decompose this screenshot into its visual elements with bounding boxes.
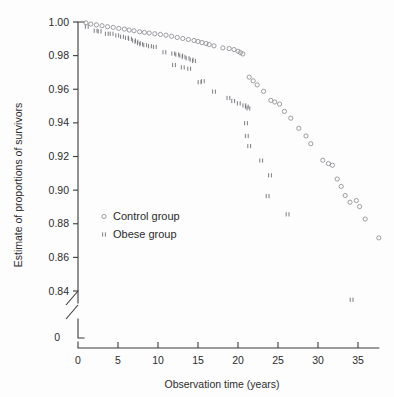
- data-point-control: [106, 25, 110, 29]
- data-point-obese: [125, 36, 128, 40]
- data-point-control: [102, 214, 106, 218]
- data-point-obese: [116, 33, 119, 37]
- data-point-control: [221, 46, 225, 50]
- y-tick-label: 0.98: [49, 49, 70, 61]
- y-axis: 0.840.860.880.900.920.940.960.981.00 0 E…: [12, 16, 84, 343]
- data-point-control: [282, 109, 286, 113]
- data-point-control: [170, 34, 174, 38]
- data-point-control: [251, 79, 255, 83]
- x-axis: 05101520253035 Observation time (years): [75, 342, 379, 390]
- data-point-control: [321, 158, 325, 162]
- data-point-control: [117, 26, 121, 30]
- data-point-obese: [98, 29, 101, 33]
- data-point-obese: [103, 232, 106, 236]
- data-point-control: [255, 83, 259, 87]
- data-point-obese: [153, 45, 156, 49]
- data-point-control: [111, 25, 115, 29]
- data-point-obese: [286, 212, 289, 216]
- data-point-obese: [149, 44, 152, 48]
- y-tick-label: 0.88: [49, 217, 70, 229]
- data-point-obese: [245, 134, 248, 138]
- data-point-obese: [173, 63, 176, 67]
- y-axis-title: Estimate of proportions of survivors: [12, 103, 24, 268]
- y-axis-tick-labels: 0.840.860.880.900.920.940.960.981.00: [49, 16, 70, 297]
- x-axis-ticks: [118, 342, 358, 348]
- y-tick-label: 0.86: [49, 251, 70, 263]
- data-point-control: [377, 236, 381, 240]
- data-point-control: [326, 161, 330, 165]
- data-point-obese: [269, 173, 272, 177]
- data-point-obese: [144, 43, 147, 47]
- data-point-control: [84, 21, 88, 25]
- x-tick-label: 0: [75, 354, 81, 366]
- y-tick-label: 0.84: [49, 285, 70, 297]
- y-axis-origin-label: 0: [54, 331, 60, 343]
- data-point-obese: [237, 101, 240, 105]
- y-tick-label: 0.94: [49, 116, 70, 128]
- y-tick-label: 0.92: [49, 150, 70, 162]
- data-point-control: [89, 22, 93, 26]
- y-tick-label: 0.90: [49, 184, 70, 196]
- open-circle-icon: [102, 214, 106, 218]
- x-tick-label: 25: [272, 354, 284, 366]
- data-point-control: [147, 31, 151, 35]
- y-tick-label: 1.00: [49, 16, 70, 28]
- legend-label: Obese group: [113, 228, 177, 240]
- data-point-obese: [248, 144, 251, 148]
- data-point-control: [348, 200, 352, 204]
- data-point-control: [232, 47, 236, 51]
- data-point-control: [164, 33, 168, 37]
- data-point-control: [127, 28, 131, 32]
- data-point-control: [278, 102, 282, 106]
- data-point-obese: [121, 35, 124, 39]
- chart-canvas: 0.840.860.880.900.920.940.960.981.00 0 E…: [0, 0, 394, 397]
- data-point-control: [200, 40, 204, 44]
- data-point-control: [262, 89, 266, 93]
- data-point-control: [196, 39, 200, 43]
- data-point-control: [297, 126, 301, 130]
- x-tick-label: 35: [352, 354, 364, 366]
- data-point-obese: [193, 59, 196, 63]
- data-point-control: [181, 36, 185, 40]
- legend-item-control: Control group: [102, 210, 180, 222]
- chart-legend: Control group Obese group: [102, 210, 180, 240]
- data-point-obese: [176, 53, 179, 57]
- data-point-obese: [260, 158, 263, 162]
- data-point-obese: [213, 90, 216, 94]
- data-point-control: [343, 193, 347, 197]
- data-point-obese: [198, 80, 201, 84]
- data-point-control: [269, 98, 273, 102]
- data-point-obese: [129, 37, 132, 41]
- data-point-control: [186, 37, 190, 41]
- legend-item-obese: Obese group: [103, 228, 177, 240]
- data-point-obese: [186, 56, 189, 60]
- data-point-obese: [105, 32, 108, 36]
- data-point-control: [335, 177, 339, 181]
- data-point-control: [158, 32, 162, 36]
- x-axis-title: Observation time (years): [165, 378, 280, 390]
- data-point-control: [212, 44, 216, 48]
- data-point-control: [192, 38, 196, 42]
- x-tick-label: 15: [192, 354, 204, 366]
- data-point-obese: [182, 55, 185, 59]
- x-tick-label: 10: [152, 354, 164, 366]
- data-point-control: [289, 116, 293, 120]
- data-point-control: [363, 217, 367, 221]
- data-point-obese: [232, 99, 235, 103]
- data-point-control: [247, 75, 251, 79]
- data-point-obese: [110, 32, 113, 36]
- data-point-obese: [163, 50, 166, 54]
- data-point-obese: [85, 25, 88, 29]
- data-point-obese: [94, 29, 97, 33]
- data-point-obese: [245, 121, 248, 125]
- x-axis-tick-labels: 05101520253035: [75, 354, 364, 366]
- x-tick-label: 20: [232, 354, 244, 366]
- y-tick-label: 0.96: [49, 83, 70, 95]
- series-obese-group: [85, 25, 353, 302]
- survival-scatter-figure: 0.840.860.880.900.920.940.960.981.00 0 E…: [0, 0, 394, 397]
- data-point-control: [138, 30, 142, 34]
- data-point-control: [132, 29, 136, 33]
- x-tick-label: 30: [312, 354, 324, 366]
- double-tick-icon: [103, 232, 106, 236]
- data-point-obese: [227, 96, 230, 100]
